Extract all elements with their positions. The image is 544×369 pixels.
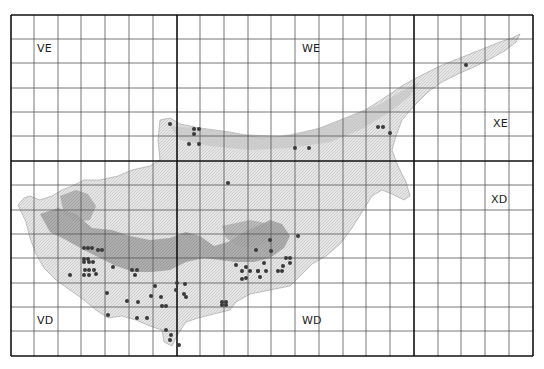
record-dot bbox=[83, 268, 87, 272]
record-dot bbox=[388, 131, 392, 135]
record-dot bbox=[244, 265, 248, 269]
record-dot bbox=[135, 316, 139, 320]
record-dot bbox=[82, 273, 86, 277]
record-dot bbox=[174, 288, 178, 292]
record-dot bbox=[248, 269, 252, 273]
record-dot bbox=[168, 122, 172, 126]
cyprus-grid-map: VE WE XE XD VD WD bbox=[0, 0, 544, 369]
record-dot bbox=[130, 268, 134, 272]
record-dot bbox=[90, 246, 94, 250]
zone-label-we: WE bbox=[302, 42, 320, 55]
record-dot bbox=[82, 246, 86, 250]
record-dot bbox=[169, 333, 173, 337]
island-landmass bbox=[18, 34, 520, 346]
record-dot bbox=[175, 281, 179, 285]
record-dot bbox=[125, 299, 129, 303]
record-dot bbox=[164, 328, 168, 332]
map-canvas bbox=[0, 0, 544, 369]
record-dot bbox=[226, 181, 230, 185]
record-dot bbox=[164, 304, 168, 308]
record-dot bbox=[264, 269, 268, 273]
record-dot bbox=[376, 125, 380, 129]
record-dot bbox=[288, 256, 292, 260]
record-dot bbox=[149, 294, 153, 298]
zone-label-vd: VD bbox=[37, 314, 53, 327]
record-dot bbox=[159, 295, 163, 299]
record-dot bbox=[276, 269, 280, 273]
record-dot bbox=[296, 234, 300, 238]
record-dot bbox=[280, 269, 284, 273]
record-dot bbox=[106, 313, 110, 317]
record-dot bbox=[105, 291, 109, 295]
record-dot bbox=[288, 261, 292, 265]
record-dot bbox=[96, 248, 100, 252]
record-dot bbox=[293, 146, 297, 150]
record-dot bbox=[168, 338, 172, 342]
record-dot bbox=[87, 268, 91, 272]
record-dot bbox=[281, 264, 285, 268]
record-dot bbox=[68, 273, 72, 277]
record-dot bbox=[136, 300, 140, 304]
record-dot bbox=[256, 269, 260, 273]
zone-label-wd: WD bbox=[302, 314, 322, 327]
record-dot bbox=[133, 273, 137, 277]
record-dot bbox=[91, 260, 95, 264]
record-dot bbox=[258, 275, 262, 279]
record-dot bbox=[87, 273, 91, 277]
record-dot bbox=[464, 63, 468, 67]
record-dot bbox=[220, 303, 224, 307]
record-dot bbox=[224, 303, 228, 307]
zone-label-xe: XE bbox=[493, 117, 508, 130]
record-dot bbox=[192, 127, 196, 131]
record-dot bbox=[86, 246, 90, 250]
record-dot bbox=[240, 269, 244, 273]
record-dot bbox=[111, 265, 115, 269]
record-dot bbox=[381, 125, 385, 129]
record-dot bbox=[262, 261, 266, 265]
record-dot bbox=[145, 316, 149, 320]
record-dot bbox=[307, 146, 311, 150]
record-dot bbox=[197, 142, 201, 146]
record-dot bbox=[254, 248, 258, 252]
record-dot bbox=[182, 292, 186, 296]
record-dot bbox=[92, 268, 96, 272]
record-dot bbox=[153, 284, 157, 288]
record-dot bbox=[135, 268, 139, 272]
record-dot bbox=[82, 260, 86, 264]
record-dot bbox=[100, 248, 104, 252]
record-dot bbox=[187, 142, 191, 146]
record-dot bbox=[268, 238, 272, 242]
island-main-body bbox=[18, 34, 520, 346]
record-dot bbox=[197, 127, 201, 131]
record-dot bbox=[177, 343, 181, 347]
record-dot bbox=[284, 256, 288, 260]
record-dot bbox=[160, 304, 164, 308]
record-dot bbox=[240, 277, 244, 281]
record-dot bbox=[234, 263, 238, 267]
record-dot bbox=[183, 282, 187, 286]
record-dot bbox=[94, 272, 98, 276]
zone-label-xd: XD bbox=[491, 193, 507, 206]
record-dot bbox=[269, 249, 273, 253]
record-dot bbox=[244, 276, 248, 280]
zone-label-ve: VE bbox=[37, 42, 52, 55]
record-dot bbox=[192, 132, 196, 136]
record-dot bbox=[87, 260, 91, 264]
